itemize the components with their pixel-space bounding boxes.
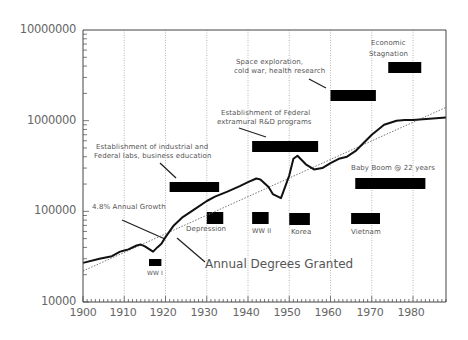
annotation-federal-line2: extramural R&D programs [217, 118, 312, 127]
annotation-baby-boom: Baby Boom @ 22 years [351, 164, 435, 173]
x-tick-label: 1950 [267, 306, 307, 319]
x-tick-label: 1910 [103, 306, 143, 319]
y-tick-label: 100000 [0, 203, 76, 217]
label-korea: Korea [291, 228, 311, 237]
annotation-space-line1: Space exploration, [236, 58, 303, 67]
annotation-space-line2: cold war, health research [234, 67, 325, 76]
y-tick-label: 1000000 [0, 113, 76, 127]
label-ww2: WW II [252, 227, 271, 236]
annotation-degrees: Annual Degrees Granted [205, 257, 353, 271]
x-tick-label: 1940 [226, 306, 266, 319]
annotation-industrial-line2: Federal labs, business education [94, 152, 211, 161]
x-tick-label: 1960 [308, 306, 348, 319]
annotation-industrial-line1: Establishment of industrial and [96, 143, 208, 152]
x-tick-label: 1900 [63, 306, 103, 319]
label-ww1: WW I [147, 268, 163, 277]
x-tick-label: 1930 [184, 306, 224, 319]
x-tick-label: 1920 [143, 306, 183, 319]
annotation-growth: 4.8% Annual Growth [92, 203, 166, 212]
y-tick-label: 10000000 [0, 22, 76, 36]
annotation-econ-line2: Stagnation [369, 50, 408, 59]
x-tick-label: 1970 [350, 306, 390, 319]
annotation-federal-line1: Establishment of Federal [221, 109, 310, 118]
degrees-data-line [83, 118, 446, 263]
annotation-econ-line1: Economic [371, 39, 406, 48]
x-tick-label: 1980 [391, 306, 431, 319]
label-vietnam: Vietnam [351, 228, 381, 237]
growth-trend-line [83, 107, 446, 271]
label-depression: Depression [186, 225, 226, 234]
